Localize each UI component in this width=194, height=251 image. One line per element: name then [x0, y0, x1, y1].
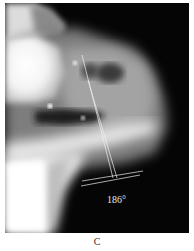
panel-label: C [0, 236, 194, 248]
angle-label: 186° [107, 194, 126, 205]
radiograph-image: 186° [5, 3, 189, 233]
radiograph-rendering: 186° [5, 3, 189, 233]
